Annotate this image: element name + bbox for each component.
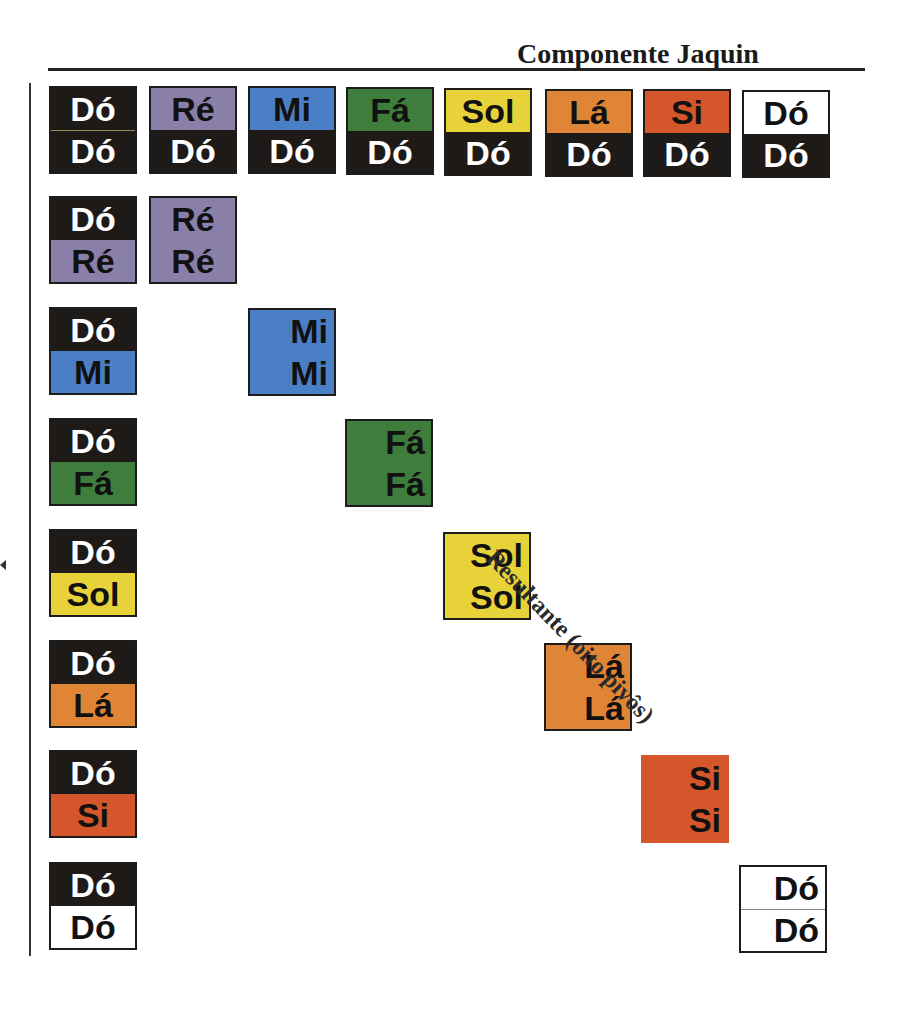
left-tile: Dó Ré xyxy=(49,196,137,284)
top-tile: Fá Dó xyxy=(346,87,434,175)
tile-top-half: Si xyxy=(645,91,729,133)
tile-bottom-half: Dó xyxy=(547,133,631,175)
tile-top-half: Dó xyxy=(51,420,135,462)
tile-top-half: Dó xyxy=(51,309,135,351)
left-tile: Dó Mi xyxy=(49,307,137,395)
diagonal-tile: Dó Dó xyxy=(739,865,827,953)
tile-top-half: Dó xyxy=(741,867,825,909)
tile-top-half: Mi xyxy=(250,310,334,352)
tile-bottom-half: Mi xyxy=(51,351,135,393)
tile-top-half: Dó xyxy=(51,752,135,794)
tile-top-half: Dó xyxy=(51,88,135,130)
tile-top-half: Dó xyxy=(744,92,828,134)
diagonal-tile: Fá Fá xyxy=(345,419,433,507)
left-tile: Dó Si xyxy=(49,750,137,838)
tile-bottom-half: Dó xyxy=(446,132,530,174)
tile-top-half: Sol xyxy=(446,90,530,132)
top-tile: Dó Dó xyxy=(49,86,137,174)
diagonal-tile: Mi Mi xyxy=(248,308,336,396)
tile-top-half: Si xyxy=(643,757,727,799)
tile-top-half: Ré xyxy=(151,198,235,240)
tile-bottom-half: Ré xyxy=(51,240,135,282)
diagram-title: Componente Jaquin xyxy=(517,38,759,70)
tile-top-half: Fá xyxy=(347,421,431,463)
top-tile: Si Dó xyxy=(643,89,731,177)
left-axis-line xyxy=(29,83,31,956)
tile-top-half: Fá xyxy=(348,89,432,131)
tile-bottom-half: Lá xyxy=(51,684,135,726)
left-arrow-icon xyxy=(0,560,6,570)
tile-top-half: Dó xyxy=(51,642,135,684)
left-tile: Dó Sol xyxy=(49,529,137,617)
tile-top-half: Dó xyxy=(51,864,135,906)
tile-bottom-half: Dó xyxy=(250,130,334,172)
tile-bottom-half: Dó xyxy=(51,131,135,173)
tile-top-half: Mi xyxy=(250,88,334,130)
left-tile: Dó Lá xyxy=(49,640,137,728)
tile-bottom-half: Fá xyxy=(51,462,135,504)
tile-top-half: Dó xyxy=(51,531,135,573)
diagonal-tile: Si Si xyxy=(641,755,729,843)
tile-top-half: Dó xyxy=(51,198,135,240)
tile-bottom-half: Sol xyxy=(51,573,135,615)
diagonal-tile: Ré Ré xyxy=(149,196,237,284)
top-tile: Lá Dó xyxy=(545,89,633,177)
tile-bottom-half: Dó xyxy=(151,130,235,172)
tile-bottom-half: Fá xyxy=(347,463,431,505)
tile-top-half: Ré xyxy=(151,88,235,130)
left-tile: Dó Fá xyxy=(49,418,137,506)
tile-bottom-half: Si xyxy=(51,794,135,836)
tile-bottom-half: Ré xyxy=(151,240,235,282)
tile-bottom-half: Si xyxy=(643,799,727,841)
top-tile: Dó Dó xyxy=(742,90,830,178)
tile-bottom-half: Dó xyxy=(645,133,729,175)
tile-bottom-half: Dó xyxy=(51,906,135,948)
left-tile: Dó Dó xyxy=(49,862,137,950)
tile-bottom-half: Dó xyxy=(348,131,432,173)
top-tile: Mi Dó xyxy=(248,86,336,174)
top-tile: Ré Dó xyxy=(149,86,237,174)
tile-top-half: Lá xyxy=(547,91,631,133)
header-rule xyxy=(48,68,865,71)
top-tile: Sol Dó xyxy=(444,88,532,176)
tile-bottom-half: Dó xyxy=(741,910,825,952)
tile-bottom-half: Mi xyxy=(250,352,334,394)
tile-bottom-half: Dó xyxy=(744,134,828,176)
